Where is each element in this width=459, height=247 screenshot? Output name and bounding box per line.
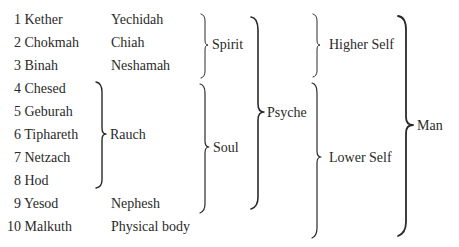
sephirah-name: Geburah [25,104,73,119]
sephirah-number: 1 [0,12,21,28]
spirit-brace [201,14,208,78]
sephirah-name: Yesod [24,196,58,211]
sephirah-number: 6 [0,127,21,143]
sephirah-number: 5 [0,104,21,120]
sephirah-number: 3 [0,58,21,74]
sephirah-name: Tiphareth [24,127,78,142]
man-brace [398,16,413,236]
group-label-spirit: Spirit [212,37,243,53]
group-label-lower-self: Lower Self [329,150,392,166]
rauch-brace [96,82,106,188]
soul-part-chiah: Chiah [111,35,144,51]
sephirah-name: Malkuth [25,219,72,234]
sephirah-name: Kether [25,12,63,27]
sephirah-5: 5 Geburah [0,104,73,120]
group-label-psyche: Psyche [267,105,307,121]
sephirah-9: 9 Yesod [0,196,58,212]
sephirah-name: Binah [25,58,58,73]
sephirah-number: 9 [0,196,21,212]
sephirah-name: Chokmah [25,35,79,50]
sephirah-name: Chesed [25,81,66,96]
soul-part-yechidah: Yechidah [111,12,163,28]
sephirah-4: 4 Chesed [0,81,66,97]
sephirah-name: Hod [25,173,49,188]
soul-part-neshamah: Neshamah [111,58,170,74]
higher-self-brace [313,14,320,77]
sephirah-number: 8 [0,173,21,189]
sephirah-3: 3 Binah [0,58,58,74]
sephirah-number: 10 [0,219,21,235]
sephirah-number: 4 [0,81,21,97]
sephirah-8: 8 Hod [0,173,49,189]
group-label-soul: Soul [213,140,239,156]
sephirah-6: 6 Tiphareth [0,127,78,143]
group-label-higher-self: Higher Self [329,37,394,53]
sephirah-number: 7 [0,150,21,166]
lower-self-brace [312,83,321,238]
group-label-man: Man [417,118,443,134]
soul-brace [200,84,209,213]
soul-part-rauch: Rauch [110,127,146,143]
sephirah-10: 10 Malkuth [0,219,72,235]
sephirah-name: Netzach [25,150,71,165]
soul-part-nephesh: Nephesh [111,196,160,212]
sephirah-2: 2 Chokmah [0,35,79,51]
kabbalah-soul-diagram: 1 Kether 2 Chokmah 3 Binah 4 Chesed 5 Ge… [0,0,459,247]
soul-part-physical-body: Physical body [111,219,190,235]
psyche-brace [251,17,264,209]
sephirah-7: 7 Netzach [0,150,70,166]
sephirah-number: 2 [0,35,21,51]
sephirah-1: 1 Kether [0,12,63,28]
